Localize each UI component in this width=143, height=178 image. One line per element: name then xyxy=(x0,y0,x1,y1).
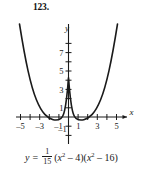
y-tick-label--1: –1 xyxy=(57,124,67,134)
y-tick-label-5: 5 xyxy=(59,66,63,76)
graph-svg: y x –5 –3 –1 1 3 5 7 5 3 1 –1 xyxy=(0,18,143,146)
equation-equals: = xyxy=(32,152,41,163)
y-tick-label-1: 1 xyxy=(59,103,63,113)
factor-two-rest: – 16) xyxy=(95,152,118,163)
x-tick-label-5: 5 xyxy=(114,121,118,131)
y-tick-label-7: 7 xyxy=(59,48,63,58)
fraction-numerator: 1 xyxy=(44,148,50,157)
equation-caption: y = 1 15 (x2 – 4)(x2 – 16) xyxy=(0,148,143,166)
factor-one-rest: – 4) xyxy=(65,152,83,163)
x-axis-arrow xyxy=(123,115,128,119)
y-tick-label-3: 3 xyxy=(59,85,63,95)
x-tick-label--3: –3 xyxy=(34,121,44,131)
equation-fraction: 1 15 xyxy=(42,148,52,166)
equation-factors: (x2 – 4)(x2 – 16) xyxy=(54,152,118,163)
equation-lhs: y xyxy=(25,152,30,163)
plot-area: y x –5 –3 –1 1 3 5 7 5 3 1 –1 xyxy=(0,18,143,146)
x-axis-label: x xyxy=(129,107,134,117)
x-tick-label--5: –5 xyxy=(15,121,25,131)
y-axis-label: y xyxy=(64,23,69,33)
x-tick-label-3: 3 xyxy=(95,121,99,131)
figure-container: 123. xyxy=(0,0,143,178)
x-tick-label-1: 1 xyxy=(76,121,80,131)
problem-number: 123. xyxy=(33,2,49,13)
fraction-denominator: 15 xyxy=(42,156,52,166)
